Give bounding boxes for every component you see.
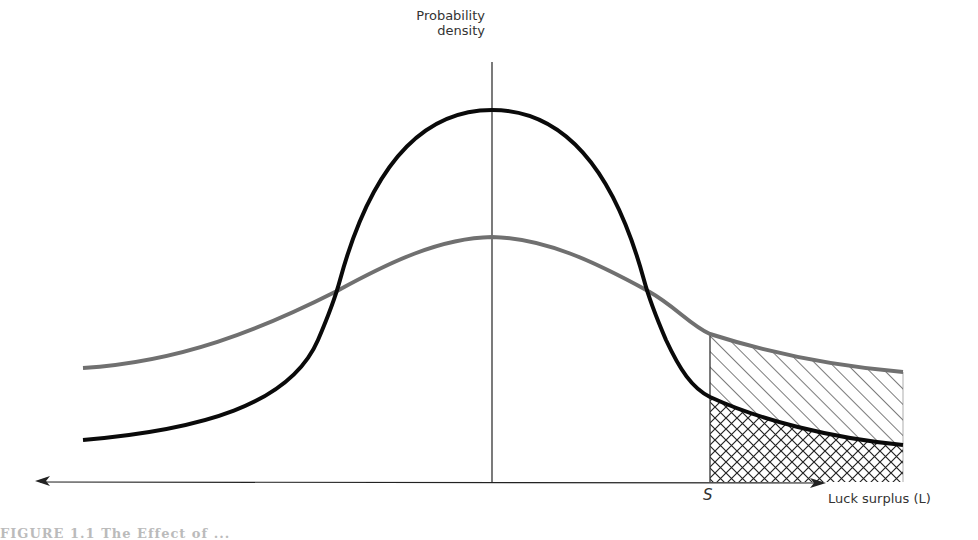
threshold-label: S	[703, 488, 713, 503]
x-axis-label: Luck surplus (L)	[828, 491, 931, 506]
y-axis-label-line1: Probability	[392, 8, 485, 23]
y-axis-label-line2: density	[392, 23, 485, 38]
wide-distribution-curve	[83, 237, 903, 372]
figure-caption: FIGURE 1.1 The Effect of ...	[0, 526, 230, 540]
y-axis-label: Probability density	[392, 8, 485, 38]
left-arrow-icon	[35, 476, 50, 486]
chart-canvas	[0, 0, 978, 540]
luck-distribution-figure: Probability density S Luck surplus (L) F…	[0, 0, 978, 540]
